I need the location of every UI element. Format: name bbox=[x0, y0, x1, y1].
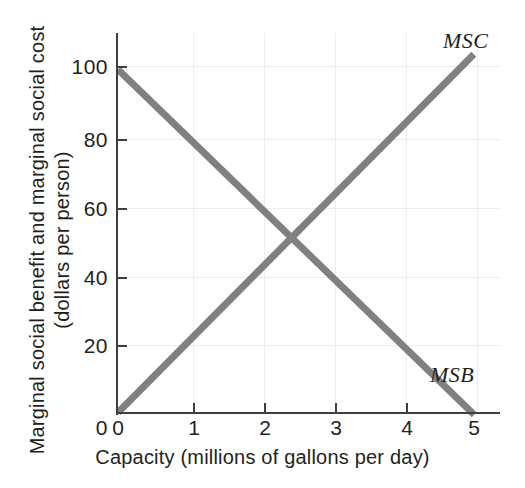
x-axis-title: Capacity (millions of gallons per day) bbox=[0, 446, 525, 469]
y-axis-title-line-1: Marginal social benefit and marginal soc… bbox=[25, 10, 50, 470]
gridline-vertical-3 bbox=[335, 33, 336, 413]
plot-area bbox=[118, 33, 500, 413]
gridline-vertical-1 bbox=[193, 33, 194, 413]
gridline-horizontal-20 bbox=[118, 345, 500, 346]
y-axis-line bbox=[116, 33, 118, 415]
x-tick-label-2: 2 bbox=[250, 417, 280, 438]
gridline-vertical-5 bbox=[477, 33, 478, 413]
x-tick-1 bbox=[193, 403, 195, 413]
y-tick-100 bbox=[118, 66, 127, 68]
x-tick-3 bbox=[335, 403, 337, 413]
x-tick-label-5: 5 bbox=[459, 417, 489, 438]
y-axis-title: Marginal social benefit and marginal soc… bbox=[25, 10, 75, 470]
x-axis-line bbox=[116, 412, 500, 414]
x-tick-4 bbox=[406, 403, 408, 413]
chart-figure: 100 80 60 40 20 0 0 1 2 3 4 5 MSC MSB Ca… bbox=[0, 0, 525, 488]
y-tick-40 bbox=[118, 277, 127, 279]
series-label-msb: MSB bbox=[430, 362, 474, 388]
series-label-msc: MSC bbox=[443, 28, 489, 54]
x-tick-label-1: 1 bbox=[179, 417, 209, 438]
x-tick-label-3: 3 bbox=[321, 417, 351, 438]
gridline-horizontal-100 bbox=[118, 66, 500, 67]
gridline-vertical-2 bbox=[264, 33, 265, 413]
x-tick-label-0: 0 bbox=[103, 417, 133, 438]
y-tick-20 bbox=[118, 345, 127, 347]
gridline-vertical-4 bbox=[406, 33, 407, 413]
y-tick-60 bbox=[118, 208, 127, 210]
gridline-horizontal-80 bbox=[118, 139, 500, 140]
y-tick-80 bbox=[118, 139, 127, 141]
gridline-horizontal-40 bbox=[118, 277, 500, 278]
x-tick-2 bbox=[264, 403, 266, 413]
y-axis-title-line-2: (dollars per person) bbox=[50, 10, 75, 470]
gridline-horizontal-60 bbox=[118, 208, 500, 209]
x-tick-label-4: 4 bbox=[392, 417, 422, 438]
